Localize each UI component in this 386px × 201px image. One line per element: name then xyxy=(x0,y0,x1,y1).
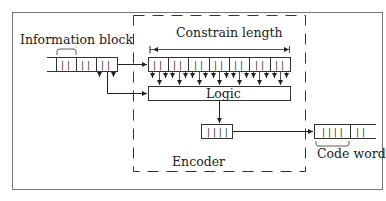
constrain-length-start-arrowhead xyxy=(153,47,158,52)
shift-cell-7: | | xyxy=(275,60,284,71)
encoder-label: Encoder xyxy=(172,154,225,169)
information-block-label: Information block xyxy=(20,32,134,47)
input-cell-3: | | xyxy=(101,60,110,71)
convolutional-encoder-diagram: Information block | | | | | | Constrain … xyxy=(0,0,386,201)
logic-label: Logic xyxy=(206,86,241,101)
shift-cell-2: | | xyxy=(173,60,182,71)
shift-cell-6: | | xyxy=(255,60,264,71)
input-cell-2: | | xyxy=(81,60,90,71)
constrain-length-label: Constrain length xyxy=(176,25,283,40)
code-word-label: Code word xyxy=(317,146,386,161)
register-taps xyxy=(153,72,287,85)
shift-cell-3: | | xyxy=(194,60,203,71)
information-block-brace xyxy=(57,49,76,55)
input-cell-1: | | xyxy=(61,60,70,71)
code-word-cell-2: | | xyxy=(356,127,365,138)
shift-cell-5: | | xyxy=(234,60,243,71)
output-cell: | | | | xyxy=(207,127,228,138)
shift-register: | | | | | | | | | | | | | | xyxy=(149,58,291,72)
shift-cell-4: | | xyxy=(214,60,223,71)
code-word-register: | | | | | | xyxy=(314,124,376,139)
code-word-cell-1: | | | | xyxy=(322,127,343,138)
shift-cell-1: | | xyxy=(153,60,162,71)
